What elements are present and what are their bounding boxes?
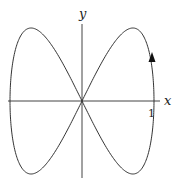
y-axis-label: y: [78, 6, 87, 21]
x-tick-label: 1: [148, 107, 155, 120]
x-axis-label: x: [164, 93, 172, 108]
diagram-canvas: y x 1: [0, 0, 180, 182]
